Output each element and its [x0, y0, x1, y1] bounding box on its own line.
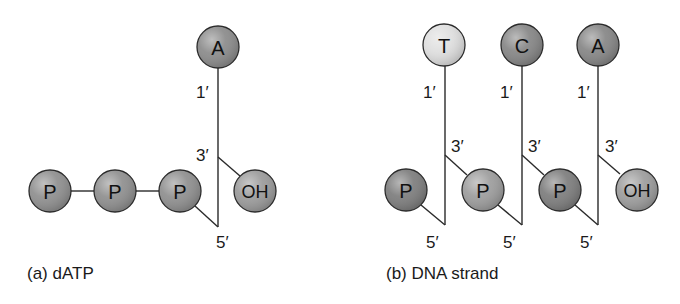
- phosphate-node: P: [159, 170, 201, 212]
- bond-line: [218, 157, 240, 176]
- hydroxyl-node: OH: [616, 169, 658, 211]
- bond-line: [522, 155, 544, 175]
- phosphate-node: P: [462, 169, 504, 211]
- phosphate-label: P: [173, 181, 186, 203]
- carbon-position-label: 1′: [500, 83, 513, 102]
- carbon-position-label: 1′: [577, 83, 590, 102]
- phosphate-label: P: [476, 180, 489, 202]
- carbon-position-label: 3′: [196, 146, 209, 165]
- bond-line: [195, 206, 218, 227]
- base-node: C: [501, 24, 543, 66]
- panel-caption: (a) dATP: [27, 264, 94, 283]
- phosphate-label: P: [553, 180, 566, 202]
- bond-line: [421, 205, 445, 225]
- bond-line: [598, 155, 620, 174]
- base-node: A: [577, 24, 619, 66]
- phosphate-node: P: [385, 169, 427, 211]
- carbon-position-label: 5′: [216, 233, 229, 252]
- hydroxyl-label: OH: [624, 181, 651, 201]
- bond-line: [575, 205, 598, 225]
- carbon-position-label: 3′: [605, 137, 618, 156]
- phosphate-node: P: [29, 170, 71, 212]
- base-label: T: [438, 35, 450, 57]
- carbon-position-label: 3′: [451, 137, 464, 156]
- phosphate-label: P: [399, 180, 412, 202]
- carbon-position-label: 1′: [423, 83, 436, 102]
- hydroxyl-node: OH: [234, 170, 276, 212]
- carbon-position-label: 1′: [196, 83, 209, 102]
- phosphate-label: P: [43, 181, 56, 203]
- hydroxyl-label: OH: [242, 182, 269, 202]
- carbon-position-label: 5′: [580, 233, 593, 252]
- carbon-position-label: 5′: [426, 233, 439, 252]
- base-label: C: [515, 35, 529, 57]
- phosphate-node: P: [94, 170, 136, 212]
- bond-line: [498, 205, 522, 225]
- bond-line: [445, 155, 467, 175]
- nucleotide-diagram: APPPOH1′3′5′(a) dATP TCAPPPOH1′3′5′1′3′5…: [0, 0, 680, 304]
- base-label: A: [591, 35, 605, 57]
- base-node: A: [197, 26, 239, 68]
- panel-dna-strand: TCAPPPOH1′3′5′1′3′5′1′3′5′(b) DNA strand: [385, 24, 658, 283]
- carbon-position-label: 5′: [503, 233, 516, 252]
- carbon-position-label: 3′: [528, 137, 541, 156]
- phosphate-label: P: [108, 181, 121, 203]
- base-label: A: [211, 37, 225, 59]
- phosphate-node: P: [539, 169, 581, 211]
- base-node: T: [423, 24, 465, 66]
- panel-datp: APPPOH1′3′5′(a) dATP: [27, 26, 276, 283]
- panel-caption: (b) DNA strand: [386, 264, 498, 283]
